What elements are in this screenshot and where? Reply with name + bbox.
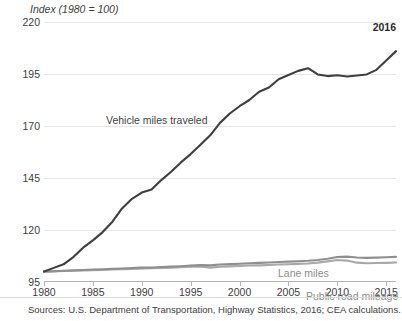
line-series-svg <box>44 22 396 282</box>
plot-area: 95120145170195220 1980198519901995200020… <box>44 22 396 282</box>
y-axis-tick-label: 220 <box>0 16 40 28</box>
x-axis-tick-mark <box>288 282 289 286</box>
y-axis-tick-label: 120 <box>0 224 40 236</box>
x-axis-tick-mark <box>44 282 45 286</box>
y-axis-tick-label: 145 <box>0 172 40 184</box>
x-axis-tick-mark <box>191 282 192 286</box>
line-lane-miles <box>44 257 396 272</box>
x-axis-tick-mark <box>93 282 94 286</box>
y-axis-tick-label: 195 <box>0 68 40 80</box>
series-label-vehicle-miles-traveled: Vehicle miles traveled <box>106 114 208 126</box>
series-lines <box>44 22 396 282</box>
x-axis-tick-mark <box>337 282 338 286</box>
line-vehicle-miles-traveled <box>44 51 396 271</box>
series-label-lane-miles: Lane miles <box>278 267 329 279</box>
y-axis-tick-label: 170 <box>0 120 40 132</box>
footer-divider <box>0 297 402 298</box>
x-axis-tick-mark <box>142 282 143 286</box>
source-note: Sources: U.S. Department of Transportati… <box>28 304 401 315</box>
chart-container: Index (1980 = 100) 2016 9512014517019522… <box>0 0 402 321</box>
y-axis-title: Index (1980 = 100) <box>30 3 118 15</box>
series-label-public-road-mileage: Public road mileage <box>306 290 398 302</box>
x-axis-tick-mark <box>386 282 387 286</box>
x-axis-tick-mark <box>240 282 241 286</box>
